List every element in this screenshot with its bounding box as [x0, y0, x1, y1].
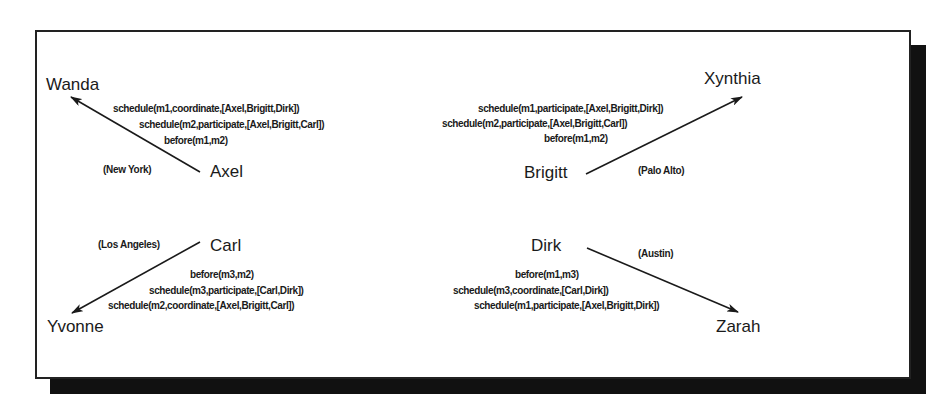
location-new-york: (New York) — [103, 164, 151, 176]
message-line: before(m1,m2) — [164, 134, 228, 147]
location-palo-alto: (Palo Alto) — [638, 165, 684, 177]
message-line: schedule(m1,coordinate,[Axel,Brigitt,Dir… — [113, 102, 299, 115]
message-line: before(m3,m2) — [190, 268, 254, 281]
node-zarah: Zarah — [716, 318, 760, 336]
location-austin: (Austin) — [638, 248, 673, 260]
node-wanda: Wanda — [46, 76, 99, 94]
node-xynthia: Xynthia — [704, 70, 761, 88]
message-line: schedule(m2,participate,[Axel,Brigitt,Ca… — [139, 118, 324, 131]
message-line: schedule(m2,coordinate,[Axel,Brigitt,Car… — [108, 299, 294, 312]
node-carl: Carl — [210, 237, 241, 255]
message-line: schedule(m2,participate,[Axel,Brigitt,Ca… — [442, 117, 627, 130]
diagram-frame — [35, 30, 911, 379]
node-yvonne: Yvonne — [47, 318, 104, 336]
message-line: schedule(m1,participate,[Axel,Brigitt,Di… — [478, 102, 663, 115]
message-line: before(m1,m2) — [544, 132, 608, 145]
location-los-angeles: (Los Angeles) — [98, 239, 160, 251]
message-line: schedule(m3,participate,[Carl,Dirk]) — [149, 284, 304, 297]
node-axel: Axel — [210, 163, 243, 181]
message-line: schedule(m3,coordinate,[Carl,Dirk]) — [453, 284, 608, 297]
node-dirk: Dirk — [531, 237, 561, 255]
node-brigitt: Brigitt — [524, 164, 567, 182]
message-line: schedule(m1,participate,[Axel,Brigitt,Di… — [474, 299, 659, 312]
message-line: before(m1,m3) — [515, 268, 579, 281]
